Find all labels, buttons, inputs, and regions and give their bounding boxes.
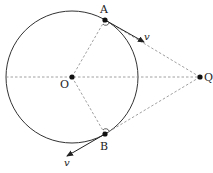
right-angle-mark-B bbox=[103, 129, 109, 131]
label-v-B: v bbox=[64, 157, 70, 168]
label-O: O bbox=[60, 78, 69, 91]
label-B: B bbox=[100, 140, 108, 153]
point-B bbox=[102, 131, 107, 136]
velocity-vector-A bbox=[105, 20, 144, 42]
point-Q bbox=[197, 74, 202, 79]
label-v-A: v bbox=[144, 31, 150, 42]
dashed-radius-OB bbox=[72, 77, 105, 134]
point-A bbox=[102, 17, 107, 22]
diagram-canvas: A O B Q v v bbox=[0, 0, 213, 173]
label-Q: Q bbox=[204, 71, 213, 84]
dashed-radius-OA bbox=[72, 20, 105, 77]
point-O bbox=[69, 74, 74, 79]
label-A: A bbox=[99, 3, 109, 16]
dashed-tangent-BQ bbox=[105, 77, 200, 134]
right-angle-mark-A bbox=[103, 23, 109, 25]
